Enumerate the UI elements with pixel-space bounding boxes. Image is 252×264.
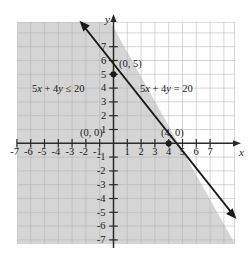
x-tick-label-6: 6 (194, 147, 199, 158)
y-tick-label-2: 2 (101, 111, 106, 122)
x-tick-label-5: 5 (180, 147, 185, 158)
point-label-4-0: (4, 0) (161, 128, 184, 139)
x-tick-label-3: 3 (152, 147, 157, 158)
y-tick-label--2: -2 (97, 166, 106, 177)
y-tick-label--7: -7 (97, 235, 106, 246)
y-tick-label--4: -4 (97, 194, 106, 205)
equation-label-mid: + 4 (150, 83, 166, 94)
y-tick-label-7: 7 (101, 42, 106, 53)
point-0-5 (110, 71, 116, 77)
x-tick-label-1: 1 (125, 147, 130, 158)
x-tick-label--5: -5 (38, 147, 47, 158)
x-tick-label--7: -7 (10, 147, 19, 158)
x-tick-label--6: -6 (24, 147, 33, 158)
y-tick-label-6: 6 (101, 56, 106, 67)
y-tick-label-3: 3 (101, 97, 106, 108)
y-tick-label--3: -3 (97, 180, 106, 191)
shaded-region (17, 22, 235, 244)
point-label-origin: (0, 0) (80, 128, 103, 139)
x-tick-label--3: -3 (65, 147, 74, 158)
point-label-0-5: (0, 5) (119, 59, 142, 70)
y-tick-label-4: 4 (101, 83, 106, 94)
equation-label: 5x + 4y = 20 (140, 84, 193, 95)
y-tick-label-5: 5 (101, 70, 106, 81)
inequality-label: 5x + 4y ≤ 20 (32, 84, 85, 95)
x-axis-label: x (239, 147, 244, 158)
x-tick-label-7: 7 (207, 147, 212, 158)
inequality-label-mid: + 4 (42, 83, 58, 94)
graph-figure: -7 -6 -5 -4 -3 -2 -1 1 2 3 4 5 6 7 7 6 5… (0, 0, 252, 264)
y-tick-label--6: -6 (97, 221, 106, 232)
x-tick-label-2: 2 (138, 147, 143, 158)
x-tick-label--4: -4 (52, 147, 61, 158)
equation-label-suffix: = 20 (171, 83, 193, 94)
coordinate-plane (0, 0, 252, 264)
x-tick-label--2: -2 (79, 147, 88, 158)
y-axis-label: y (105, 14, 110, 25)
y-tick-label--1: -1 (97, 152, 106, 163)
x-tick-label-4: 4 (166, 147, 171, 158)
y-tick-label--5: -5 (97, 208, 106, 219)
inequality-label-suffix: ≤ 20 (63, 83, 85, 94)
